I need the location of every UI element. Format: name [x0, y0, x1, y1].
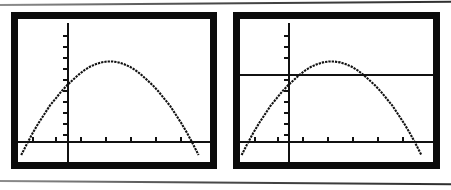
y-tick: [284, 134, 288, 136]
y-tick: [63, 46, 67, 48]
page-rule-top-divider: [0, 1, 451, 6]
y-axis-left: [67, 23, 69, 162]
y-tick: [63, 35, 67, 37]
x-tick: [105, 137, 107, 141]
y-tick: [284, 79, 288, 81]
y-tick: [284, 123, 288, 125]
y-tick: [63, 101, 67, 103]
page-rule-bottom-divider: [0, 180, 451, 185]
y-tick: [63, 123, 67, 125]
x-tick: [180, 137, 182, 141]
plot-area-left: [18, 19, 210, 162]
x-tick: [32, 137, 34, 141]
y-tick: [63, 68, 67, 70]
y-axis-right: [288, 23, 290, 162]
y-tick: [63, 57, 67, 59]
x-tick: [327, 137, 329, 141]
x-tick: [352, 137, 354, 141]
y-tick: [284, 35, 288, 37]
y-tick: [63, 134, 67, 136]
x-axis-right: [240, 141, 433, 143]
calculator-screen-left: [11, 12, 217, 169]
x-axis-left: [18, 141, 210, 143]
y-tick: [63, 90, 67, 92]
x-tick: [130, 137, 132, 141]
calculator-screen-right: [233, 12, 440, 169]
y-tick: [284, 90, 288, 92]
x-tick: [55, 137, 57, 141]
y-tick: [63, 79, 67, 81]
x-tick: [402, 137, 404, 141]
figure-container: [0, 0, 451, 190]
x-tick: [277, 137, 279, 141]
x-tick: [80, 137, 82, 141]
y-tick: [284, 46, 288, 48]
horizontal-constant-line: [240, 74, 433, 76]
x-tick: [155, 137, 157, 141]
x-tick: [377, 137, 379, 141]
x-tick: [302, 137, 304, 141]
y-tick: [284, 101, 288, 103]
y-tick: [284, 57, 288, 59]
y-tick: [63, 112, 67, 114]
x-tick: [254, 137, 256, 141]
y-tick: [284, 112, 288, 114]
plot-area-right: [240, 19, 433, 162]
